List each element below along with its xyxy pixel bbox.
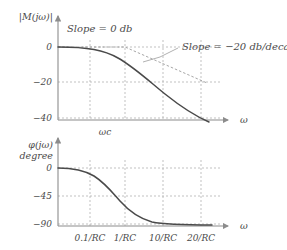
phase-curve	[58, 168, 212, 225]
magnitude-curve	[58, 47, 209, 122]
magnitude-ytick-0: 0	[46, 42, 52, 52]
annotation-slope-zero: Slope = 0 db	[67, 23, 132, 34]
magnitude-x-axis-label: ω	[240, 114, 248, 125]
magnitude-asymptote-line	[58, 47, 207, 83]
phase-ytick-0: 0	[46, 163, 52, 173]
bode-plot-figure: 0 −20 −40 |M(jω)| ω ωc Slope = 0 db Slop…	[0, 0, 287, 250]
phase-grid-horizontal	[58, 168, 222, 224]
phase-ytick-neg45: −45	[33, 191, 52, 201]
phase-plot-group: 0 −45 −90 φ(jω) degree ω 0.1/RC 1/RC 10/…	[19, 138, 248, 243]
rolloff-leader-line	[143, 48, 178, 62]
phase-y-axis-label-symbol: φ(jω)	[28, 139, 53, 150]
phase-ytick-neg90: −90	[33, 219, 52, 229]
breakpoint-label-omega-c: ωc	[99, 127, 111, 137]
magnitude-ytick-neg20: −20	[33, 77, 52, 87]
magnitude-grid-horizontal	[58, 47, 222, 118]
magnitude-y-axis-label: |M(jω)|	[19, 11, 53, 23]
phase-x-axis-label: ω	[240, 220, 248, 231]
magnitude-plot-group: 0 −20 −40 |M(jω)| ω ωc Slope = 0 db Slop…	[19, 11, 287, 137]
phase-grid-vertical	[90, 160, 201, 226]
phase-xtick-1: 0.1/RC	[74, 233, 105, 243]
phase-y-axis-label-unit: degree	[19, 150, 53, 161]
phase-xtick-4: 20/RC	[186, 233, 215, 243]
phase-xtick-3: 10/RC	[149, 233, 177, 243]
magnitude-ytick-neg40: −40	[33, 113, 52, 123]
phase-xtick-2: 1/RC	[114, 233, 137, 243]
annotation-slope-rolloff: Slope = −20 db/decade	[182, 41, 287, 52]
bode-plot-canvas: 0 −20 −40 |M(jω)| ω ωc Slope = 0 db Slop…	[0, 0, 287, 250]
